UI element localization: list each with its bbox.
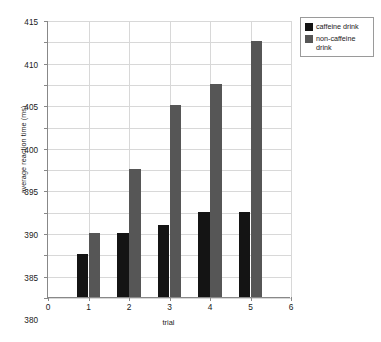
y-axis-tick: 395 xyxy=(44,106,48,107)
y-axis-tick-label: 390 xyxy=(24,231,38,240)
y-axis-tick: 360 xyxy=(44,255,48,256)
bar-non-caffeine-drink-trial-4 xyxy=(210,84,222,297)
x-axis-tick-label: 2 xyxy=(127,302,132,312)
y-axis-tick-label: 400 xyxy=(24,145,38,154)
plot-area: 3503553603653703753803853903954004054104… xyxy=(47,21,290,298)
y-axis-tick-label: 405 xyxy=(24,103,38,112)
x-axis-tick xyxy=(210,297,211,301)
x-axis-tick-label: 6 xyxy=(289,302,294,312)
y-axis-tick: 370 xyxy=(44,213,48,214)
y-axis-tick-label: 380 xyxy=(24,316,38,325)
legend-swatch-icon xyxy=(305,23,313,31)
y-axis-tick: 415 xyxy=(44,21,48,22)
y-axis-tick-label: 385 xyxy=(24,273,38,282)
legend-swatch-icon xyxy=(305,35,313,43)
legend-label: caffeine drink xyxy=(316,22,359,31)
bar-caffeine-drink-trial-4 xyxy=(198,212,210,297)
x-axis-tick xyxy=(89,297,90,301)
y-axis-tick: 405 xyxy=(44,64,48,65)
x-axis-tick xyxy=(251,297,252,301)
bar-non-caffeine-drink-trial-3 xyxy=(170,105,182,297)
bar-caffeine-drink-trial-2 xyxy=(117,233,129,297)
bar-caffeine-drink-trial-1 xyxy=(77,254,89,297)
x-axis-tick-label: 5 xyxy=(248,302,253,312)
x-axis-tick xyxy=(48,297,49,301)
x-axis-tick-label: 3 xyxy=(167,302,172,312)
x-axis-tick-label: 1 xyxy=(86,302,91,312)
bar-non-caffeine-drink-trial-1 xyxy=(89,233,101,297)
bar-caffeine-drink-trial-3 xyxy=(158,225,170,297)
x-axis-tick xyxy=(170,297,171,301)
y-axis-tick: 385 xyxy=(44,149,48,150)
y-axis-tick-label: 395 xyxy=(24,188,38,197)
x-axis-title: trial xyxy=(47,318,290,327)
x-axis-tick-label: 0 xyxy=(46,302,51,312)
bar-non-caffeine-drink-trial-2 xyxy=(129,169,141,297)
legend-label: non-caffeine drink xyxy=(316,34,369,52)
y-axis-tick: 380 xyxy=(44,170,48,171)
x-axis-tick xyxy=(129,297,130,301)
legend-item-non-caffeine: non-caffeine drink xyxy=(305,34,369,52)
y-axis-tick: 375 xyxy=(44,191,48,192)
bar-chart: average reaction time (ms) 3503553603653… xyxy=(0,0,381,342)
legend-item-caffeine: caffeine drink xyxy=(305,22,369,31)
x-axis-tick xyxy=(291,297,292,301)
y-axis-tick: 355 xyxy=(44,277,48,278)
gridline-vertical xyxy=(291,21,292,298)
y-axis-tick-label: 415 xyxy=(24,18,38,27)
bar-non-caffeine-drink-trial-5 xyxy=(251,41,263,297)
y-axis-tick: 365 xyxy=(44,234,48,235)
bar-caffeine-drink-trial-5 xyxy=(239,212,251,297)
y-axis-tick-label: 410 xyxy=(24,60,38,69)
y-axis-tick: 390 xyxy=(44,128,48,129)
y-axis-tick: 400 xyxy=(44,85,48,86)
x-axis-tick-label: 4 xyxy=(208,302,213,312)
y-axis-tick: 410 xyxy=(44,42,48,43)
chart-legend: caffeine drink non-caffeine drink xyxy=(300,17,374,57)
